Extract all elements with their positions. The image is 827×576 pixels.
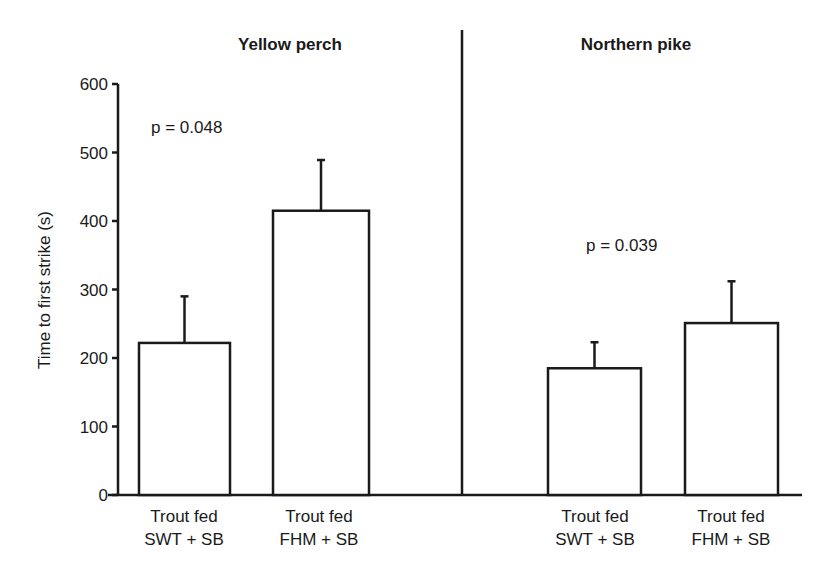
x-label-line2: SWT + SB (144, 530, 224, 549)
x-tick-labels: Trout fed SWT + SB Trout fed FHM + SB Tr… (144, 507, 770, 549)
bar-chart: 0100200300400500600 Time to first strike… (0, 0, 827, 576)
y-axis-label: Time to first strike (s) (35, 211, 54, 369)
panel-title-northern-pike: Northern pike (581, 35, 692, 54)
x-label-line1: Trout fed (150, 507, 217, 526)
x-label-line2: FHM + SB (280, 530, 359, 549)
bar (685, 323, 778, 495)
y-tick-label: 500 (80, 144, 108, 163)
y-tick-label: 200 (80, 349, 108, 368)
y-tick-label: 100 (80, 418, 108, 437)
y-tick-label: 400 (80, 212, 108, 231)
bar (139, 343, 230, 495)
x-label-line1: Trout fed (561, 507, 628, 526)
y-ticks: 0100200300400500600 (80, 75, 118, 505)
p-value-yellow-perch: p = 0.048 (151, 118, 222, 137)
p-value-northern-pike: p = 0.039 (586, 236, 657, 255)
y-tick-label: 300 (80, 281, 108, 300)
y-tick-label: 0 (99, 486, 108, 505)
bar (273, 211, 369, 495)
bar (548, 368, 641, 495)
x-label-line2: FHM + SB (692, 530, 771, 549)
bars (139, 211, 778, 495)
x-label-line1: Trout fed (285, 507, 352, 526)
x-label-line2: SWT + SB (555, 530, 635, 549)
y-tick-label: 600 (80, 75, 108, 94)
x-label-line1: Trout fed (697, 507, 764, 526)
panel-title-yellow-perch: Yellow perch (238, 35, 342, 54)
error-bars (181, 160, 736, 368)
